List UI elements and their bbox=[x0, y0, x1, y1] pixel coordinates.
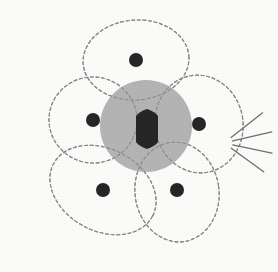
ray-line-3 bbox=[233, 145, 272, 153]
ovary bbox=[136, 109, 158, 149]
floral-diagram bbox=[0, 0, 278, 272]
dot-left bbox=[86, 113, 100, 127]
figure-canvas bbox=[0, 0, 278, 272]
dot-bottom-right bbox=[170, 183, 184, 197]
ray-line-4 bbox=[231, 148, 263, 172]
ray-line-1 bbox=[231, 113, 263, 138]
ray-line-2 bbox=[233, 132, 272, 141]
radiating-rays bbox=[231, 113, 272, 172]
dot-top bbox=[129, 53, 143, 67]
dot-right bbox=[192, 117, 206, 131]
dot-bottom-left bbox=[96, 183, 110, 197]
hatch-line bbox=[0, 0, 120, 120]
